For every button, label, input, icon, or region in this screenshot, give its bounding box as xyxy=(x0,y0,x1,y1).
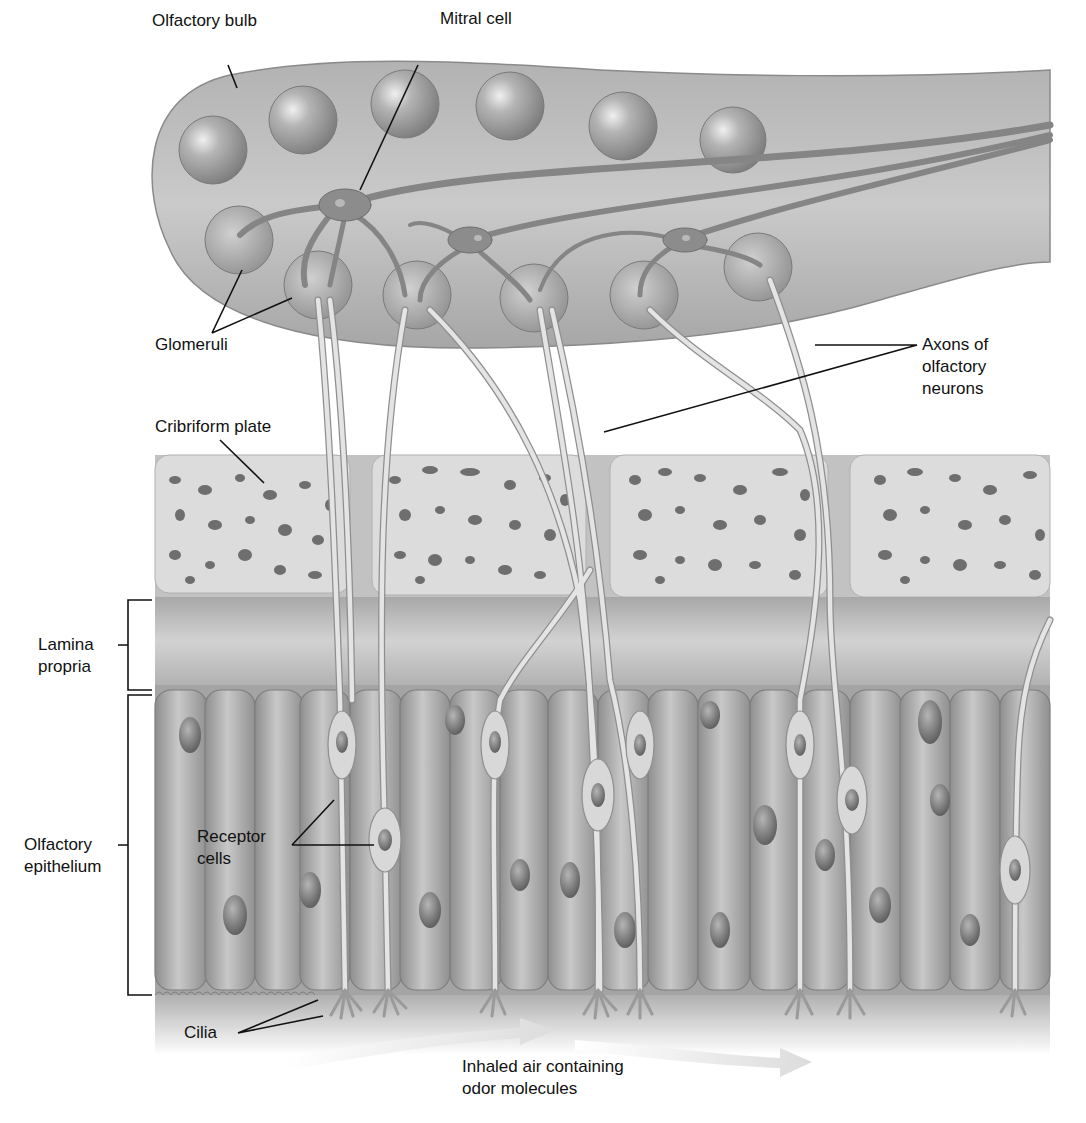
label-axons-line1: Axons of xyxy=(922,334,988,355)
label-lamina-line1: Lamina xyxy=(38,634,94,655)
label-cilia: Cilia xyxy=(184,1022,217,1043)
label-epithelium-line2: epithelium xyxy=(24,856,102,877)
leader-axons xyxy=(604,345,917,432)
label-air-line2: odor molecules xyxy=(462,1078,577,1099)
bracket-lamina-propria xyxy=(118,600,152,690)
label-lamina-line2: propria xyxy=(38,656,91,677)
label-axons-line2: olfactory xyxy=(922,356,986,377)
label-olfactory-bulb: Olfactory bulb xyxy=(152,10,257,31)
label-epithelium-line1: Olfactory xyxy=(24,834,92,855)
label-axons-line3: neurons xyxy=(922,378,983,399)
label-cribriform-plate: Cribriform plate xyxy=(155,416,271,437)
diagram-artwork xyxy=(0,0,1086,1123)
bracket-olfactory-epithelium xyxy=(118,695,152,995)
label-receptor-line2: cells xyxy=(197,848,231,869)
label-receptor-line1: Receptor xyxy=(197,826,266,847)
label-air-line1: Inhaled air containing xyxy=(462,1056,624,1077)
olfactory-diagram: Olfactory bulb Mitral cell Glomeruli Axo… xyxy=(0,0,1086,1123)
label-glomeruli: Glomeruli xyxy=(155,334,228,355)
label-mitral-cell: Mitral cell xyxy=(440,8,512,29)
